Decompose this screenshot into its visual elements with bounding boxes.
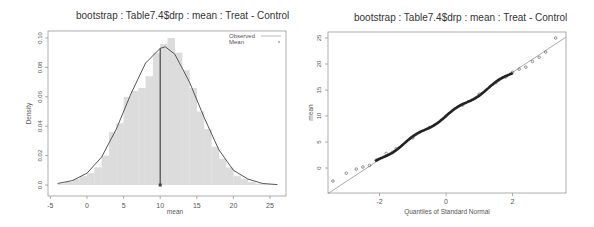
- y-tick-label: 0.10: [37, 32, 43, 44]
- histogram-bar: [80, 176, 88, 185]
- qq-points: [332, 37, 557, 183]
- histogram-bar: [233, 176, 241, 185]
- histogram-bar: [116, 123, 124, 185]
- histogram-panel: bootstrap : Table7.4$drp : mean : Treat …: [0, 0, 300, 227]
- histogram-bar: [102, 156, 110, 185]
- qq-point: [332, 180, 335, 183]
- x-tick-label: 15: [193, 202, 201, 209]
- histogram-bar: [65, 182, 73, 185]
- histogram-bar: [153, 53, 161, 185]
- histogram-bars: [58, 38, 278, 185]
- y-tick-label: 0.02: [37, 149, 43, 161]
- histogram-bar: [241, 179, 249, 185]
- histogram-bar: [131, 91, 139, 185]
- histogram-bar: [189, 88, 197, 185]
- histogram-bar: [146, 76, 154, 185]
- x-tick-label: 0: [85, 202, 89, 209]
- y-tick-label: 20: [316, 60, 322, 67]
- qq-chart: -2020510152025Quantiles of Standard Norm…: [300, 0, 594, 227]
- y-tick-label: 0.06: [37, 90, 43, 102]
- x-tick-label: -2: [376, 198, 382, 205]
- qq-panel: bootstrap : Table7.4$drp : mean : Treat …: [300, 0, 594, 227]
- histogram-bar: [219, 159, 227, 185]
- x-axis-label: mean: [167, 208, 184, 215]
- x-tick-label: 25: [266, 202, 274, 209]
- y-tick-label: 0: [316, 166, 322, 170]
- x-tick-label: 10: [156, 202, 164, 209]
- histogram-bar: [248, 182, 256, 185]
- qq-point: [538, 56, 541, 59]
- histogram-bar: [160, 44, 168, 185]
- qq-point: [554, 37, 557, 40]
- qq-point: [362, 166, 365, 169]
- histogram-bar: [255, 184, 263, 185]
- plot-frame: [328, 32, 566, 193]
- qq-point: [544, 51, 547, 54]
- histogram-bar: [94, 167, 102, 185]
- y-axis-label: Density: [25, 102, 33, 124]
- histogram-bar: [168, 38, 176, 185]
- x-tick-label: 5: [122, 202, 126, 209]
- histogram-bar: [87, 173, 95, 185]
- x-axis-label: Quantiles of Standard Normal: [404, 208, 490, 216]
- qq-point: [385, 152, 388, 155]
- mean-marker: [159, 184, 162, 187]
- legend-mean: Mean: [229, 39, 244, 45]
- y-tick-label: 5: [316, 140, 322, 144]
- legend: ObservedMean: [229, 33, 281, 45]
- y-tick-label: 25: [316, 34, 322, 41]
- histogram-bar: [211, 147, 219, 185]
- histogram-bar: [204, 129, 212, 185]
- y-tick-label: 0.0: [37, 180, 43, 189]
- x-tick-label: 0: [444, 198, 448, 205]
- y-tick-label: 15: [316, 86, 322, 93]
- qq-point: [525, 66, 528, 69]
- y-tick-label: 0.04: [37, 120, 43, 132]
- y-axis-label: mean: [307, 104, 314, 121]
- qq-point: [355, 168, 358, 171]
- x-tick-label: 20: [230, 202, 238, 209]
- histogram-bar: [182, 70, 190, 185]
- qq-point: [345, 172, 348, 175]
- x-tick-label: 2: [511, 198, 515, 205]
- histogram-bar: [175, 53, 183, 185]
- y-tick-label: 0.08: [37, 61, 43, 73]
- histogram-bar: [138, 88, 146, 185]
- qq-point: [531, 60, 534, 63]
- histogram-bar: [226, 167, 234, 185]
- x-tick-label: -5: [47, 202, 53, 209]
- histogram-chart: -505101520250.00.020.040.060.080.10meanD…: [0, 0, 300, 227]
- y-tick-label: 10: [316, 112, 322, 119]
- histogram-bar: [197, 112, 205, 186]
